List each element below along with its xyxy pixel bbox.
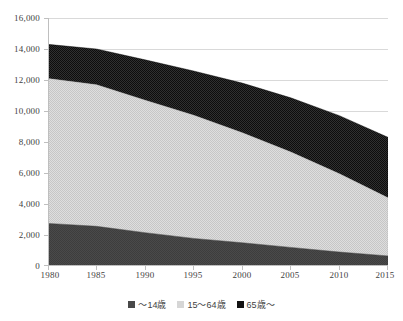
stacked-area-chart: 16,000 14,000 12,000 10,000 8,000 6,000 … <box>0 0 403 321</box>
y-axis-tick <box>44 173 48 174</box>
y-axis-label: 12,000 <box>14 75 40 85</box>
x-axis-label: 1980 <box>41 270 60 280</box>
chart-legend: 〜14歳 15〜64歳 65歳〜 <box>0 298 403 311</box>
x-axis-label: 2000 <box>233 270 252 280</box>
legend-item-young[interactable]: 〜14歳 <box>128 298 166 311</box>
legend-swatch-icon <box>237 301 244 308</box>
y-axis-label: 4,000 <box>19 199 40 209</box>
y-axis-label: 16,000 <box>14 13 40 23</box>
x-axis-label: 1995 <box>184 270 203 280</box>
y-axis-tick <box>44 204 48 205</box>
y-axis-tick <box>44 235 48 236</box>
x-axis-label: 2015 <box>376 270 395 280</box>
y-axis-tick <box>44 142 48 143</box>
y-axis-label: 14,000 <box>14 44 40 54</box>
y-axis-label: 0 <box>35 261 40 271</box>
y-axis-tick <box>44 111 48 112</box>
y-axis-tick <box>44 49 48 50</box>
x-axis-label: 2010 <box>330 270 349 280</box>
y-axis-labels: 16,000 14,000 12,000 10,000 8,000 6,000 … <box>0 0 44 321</box>
legend-swatch-icon <box>177 301 184 308</box>
series-areas <box>48 18 388 266</box>
x-axis-label: 1985 <box>87 270 106 280</box>
x-axis-label: 2005 <box>281 270 300 280</box>
legend-swatch-icon <box>128 301 135 308</box>
y-axis-label: 10,000 <box>14 106 40 116</box>
plot-area <box>48 18 388 266</box>
legend-label: 〜14歳 <box>138 298 166 311</box>
y-axis-tick <box>44 80 48 81</box>
y-axis-line <box>48 18 49 266</box>
legend-item-elderly[interactable]: 65歳〜 <box>237 298 275 311</box>
legend-label: 65歳〜 <box>247 298 275 311</box>
y-axis-tick <box>44 18 48 19</box>
y-axis-label: 8,000 <box>19 137 40 147</box>
x-axis-labels: 1980 1985 1990 1995 2000 2005 2010 2015 <box>48 270 388 286</box>
y-axis-label: 2,000 <box>19 230 40 240</box>
y-axis-label: 6,000 <box>19 168 40 178</box>
x-axis-label: 1990 <box>136 270 155 280</box>
legend-item-working[interactable]: 15〜64歳 <box>177 298 225 311</box>
legend-label: 15〜64歳 <box>187 298 225 311</box>
x-axis-line <box>48 265 388 266</box>
